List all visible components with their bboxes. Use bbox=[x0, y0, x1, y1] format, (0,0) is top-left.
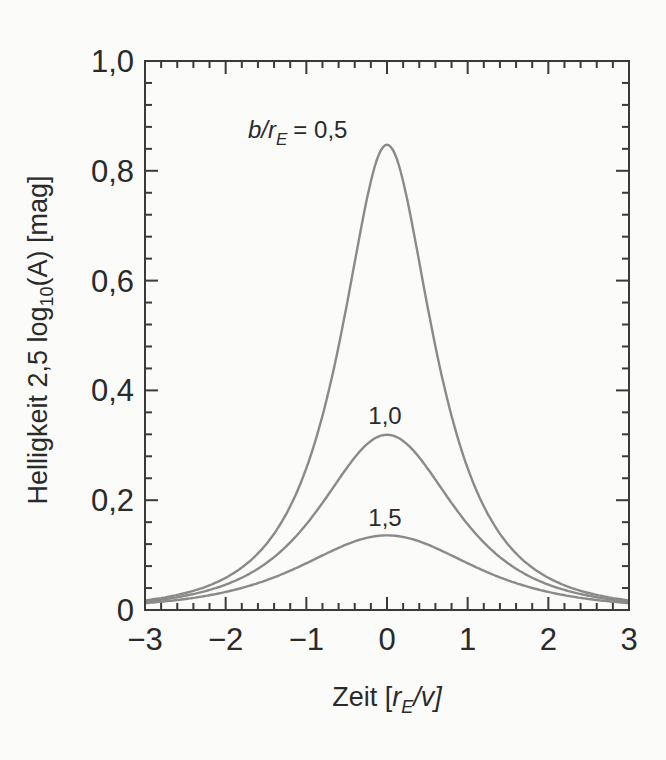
x-tick-label: 0 bbox=[378, 622, 395, 657]
y-axis-title: Helligkeit 2,5 log10(A) [mag] bbox=[23, 175, 57, 504]
y-tick-label: 0,8 bbox=[91, 154, 134, 189]
x-tick-labels: −3−2−10123 bbox=[127, 622, 637, 657]
curve-label-b15: 1,5 bbox=[368, 504, 401, 531]
x-tick-label: 3 bbox=[620, 622, 637, 657]
y-tick-label: 0 bbox=[117, 593, 134, 628]
curve-15 bbox=[145, 535, 629, 603]
y-tick-label: 0,2 bbox=[91, 483, 134, 518]
x-tick-label: 2 bbox=[540, 622, 557, 657]
curve-05 bbox=[145, 145, 629, 601]
y-tick-label: 0,6 bbox=[91, 264, 134, 299]
x-tick-label: −2 bbox=[208, 622, 243, 657]
y-tick-label: 1,0 bbox=[91, 44, 134, 79]
curves bbox=[145, 145, 629, 603]
curve-label-b10: 1,0 bbox=[368, 402, 401, 429]
x-axis-title: Zeit [rE/v] bbox=[332, 682, 443, 717]
microlensing-light-curve-chart: −3−2−10123 00,20,40,60,81,0 b/rE= 0,5 1,… bbox=[0, 0, 666, 760]
y-tick-label: 0,4 bbox=[91, 373, 134, 408]
x-tick-label: 1 bbox=[459, 622, 476, 657]
curve-label-b05: b/rE= 0,5 bbox=[248, 116, 347, 149]
x-tick-label: −1 bbox=[289, 622, 324, 657]
y-tick-labels: 00,20,40,60,81,0 bbox=[91, 44, 134, 628]
